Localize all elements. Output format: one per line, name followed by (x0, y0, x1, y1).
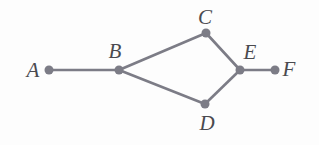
graph-vertex-b (115, 66, 124, 75)
vertex-label-b: B (109, 41, 122, 62)
graph-canvas (0, 0, 319, 145)
vertex-label-d: D (199, 113, 214, 134)
vertex-label-c: C (198, 7, 212, 28)
graph-vertex-e (236, 66, 245, 75)
vertex-label-e: E (244, 42, 257, 63)
graph-edge-b-d (119, 70, 205, 104)
graph-figure: ABCDEF (0, 0, 319, 145)
vertex-label-f: F (283, 59, 296, 80)
graph-edge-c-e (206, 33, 240, 70)
vertex-label-a: A (27, 60, 40, 81)
graph-vertex-a (45, 66, 54, 75)
graph-vertex-d (201, 100, 210, 109)
graph-vertex-f (271, 66, 280, 75)
graph-vertex-c (202, 29, 211, 38)
graph-edge-d-e (205, 70, 240, 104)
graph-edge-b-c (119, 33, 206, 70)
